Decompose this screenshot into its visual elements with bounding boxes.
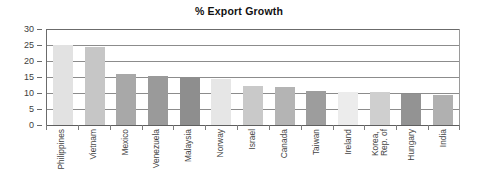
- bar[interactable]: [433, 95, 453, 125]
- y-axis: 051015202530: [0, 29, 42, 125]
- x-axis-label: Israel: [248, 129, 257, 149]
- bar-series: [47, 29, 459, 125]
- x-axis-label: Hungary: [408, 129, 417, 161]
- y-tick-label-25: 25: [24, 41, 34, 50]
- bar[interactable]: [243, 86, 263, 125]
- x-axis-label-line: Hungary: [407, 129, 417, 161]
- x-axis-label: Mexico: [121, 129, 130, 156]
- x-axis-label-line: India: [438, 129, 448, 147]
- bar[interactable]: [275, 87, 295, 125]
- y-tick-mark-20: [37, 61, 42, 62]
- x-label-slot: India: [434, 127, 454, 191]
- x-axis-label-line: Ireland: [343, 129, 353, 155]
- bar[interactable]: [306, 91, 326, 125]
- x-label-slot: Venezuela: [147, 127, 167, 191]
- plot-area: [46, 29, 460, 125]
- bar[interactable]: [370, 92, 390, 125]
- x-axis-label-line: Philippines: [56, 129, 66, 170]
- x-axis-label-line: Mexico: [120, 129, 130, 156]
- y-tick-label-15: 15: [24, 73, 34, 82]
- y-tick-label-20: 20: [24, 57, 34, 66]
- y-tick-mark-30: [37, 29, 42, 30]
- bar[interactable]: [180, 77, 200, 125]
- x-axis-label: Canada: [280, 129, 289, 158]
- x-axis-label-line: Venezuela: [152, 129, 162, 168]
- x-axis-label: Ireland: [344, 129, 353, 155]
- bar[interactable]: [116, 74, 136, 125]
- x-label-slot: Hungary: [402, 127, 422, 191]
- x-axis-label: Venezuela: [153, 129, 162, 168]
- y-tick-label-5: 5: [29, 105, 34, 114]
- y-tick-mark-10: [37, 93, 42, 94]
- x-axis-label-line: Norway: [215, 129, 225, 157]
- bar[interactable]: [338, 92, 358, 125]
- x-label-slot: Taiwan: [307, 127, 327, 191]
- x-axis-label: Philippines: [57, 129, 66, 170]
- bar[interactable]: [148, 76, 168, 125]
- x-axis-label: Norway: [216, 129, 225, 157]
- x-axis-label-line: Israel: [247, 129, 257, 149]
- x-axis-label: Malaysia: [185, 129, 194, 162]
- x-label-slot: Norway: [211, 127, 231, 191]
- x-label-slot: Vietnam: [84, 127, 104, 191]
- y-tick-label-10: 10: [24, 89, 34, 98]
- x-axis-label-line: Vietnam: [88, 129, 98, 160]
- x-axis-label-line: Malaysia: [184, 129, 194, 162]
- bar[interactable]: [211, 79, 231, 125]
- x-axis-label: Taiwan: [312, 129, 321, 155]
- x-axis-labels: PhilippinesVietnamMexicoVenezuelaMalaysi…: [46, 127, 460, 191]
- x-axis-label-line: Rep. of: [380, 129, 389, 156]
- x-axis-label: Vietnam: [89, 129, 98, 160]
- x-label-slot: Canada: [275, 127, 295, 191]
- x-label-slot: Israel: [243, 127, 263, 191]
- bar[interactable]: [85, 47, 105, 125]
- y-tick-mark-0: [37, 125, 42, 126]
- y-tick-mark-15: [37, 77, 42, 78]
- x-axis-label-line: Canada: [279, 129, 289, 158]
- x-label-slot: Malaysia: [179, 127, 199, 191]
- bar[interactable]: [53, 45, 73, 125]
- y-tick-mark-25: [37, 45, 42, 46]
- x-axis-label: Korea,Rep. of: [371, 129, 390, 156]
- x-label-slot: Mexico: [116, 127, 136, 191]
- chart-title: % Export Growth: [0, 5, 478, 17]
- y-tick-label-30: 30: [24, 25, 34, 34]
- x-label-slot: Korea,Rep. of: [370, 127, 390, 191]
- x-axis-label-line: Taiwan: [311, 129, 321, 155]
- y-tick-mark-5: [37, 109, 42, 110]
- export-growth-bar-chart: % Export Growth 051015202530 Philippines…: [0, 0, 478, 191]
- y-tick-label-0: 0: [29, 121, 34, 130]
- x-label-slot: Ireland: [339, 127, 359, 191]
- bar[interactable]: [401, 94, 421, 125]
- x-axis-label: India: [439, 129, 448, 147]
- x-label-slot: Philippines: [52, 127, 72, 191]
